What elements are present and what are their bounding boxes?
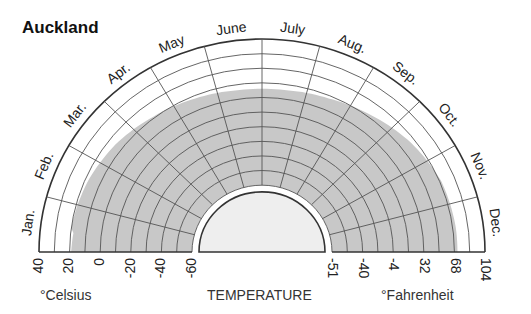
fahrenheit-tick: 68 xyxy=(448,258,464,274)
month-label: Oct. xyxy=(435,100,463,130)
celsius-tick: -60 xyxy=(183,258,199,278)
celsius-tick: -40 xyxy=(152,258,168,278)
month-label: Apr. xyxy=(103,59,132,87)
temperature-axis-label: TEMPERATURE xyxy=(207,287,312,303)
celsius-axis-label: °Celsius xyxy=(40,287,92,303)
month-label: May xyxy=(156,31,187,56)
celsius-tick: 40 xyxy=(30,258,46,274)
fahrenheit-tick: 104 xyxy=(478,258,494,282)
month-label: Mar. xyxy=(60,99,89,130)
fahrenheit-axis-label: °Fahrenheit xyxy=(381,287,454,303)
month-label: July xyxy=(279,19,306,38)
celsius-tick: 0 xyxy=(91,258,107,266)
fahrenheit-tick: 32 xyxy=(417,258,433,274)
inner-half-disc xyxy=(199,192,325,252)
month-label: June xyxy=(215,18,247,38)
fahrenheit-tick: -40 xyxy=(356,258,372,278)
fahrenheit-tick: -51 xyxy=(325,258,341,278)
month-label: Dec. xyxy=(486,207,506,238)
fahrenheit-tick: -4 xyxy=(386,258,402,271)
celsius-tick: -20 xyxy=(122,258,138,278)
month-label: Jan. xyxy=(18,208,37,236)
month-label: Sep. xyxy=(390,58,423,88)
celsius-tick: 20 xyxy=(60,258,76,274)
polar-temperature-chart: Jan.Feb.Mar.Apr.MayJuneJulyAug.Sep.Oct.N… xyxy=(0,0,531,314)
